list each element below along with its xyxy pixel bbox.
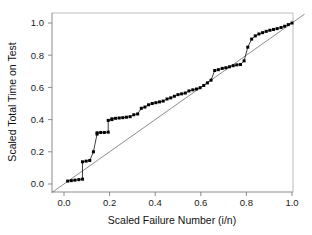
data-point xyxy=(77,178,80,181)
x-axis-ticks xyxy=(64,192,292,196)
data-point xyxy=(166,97,169,100)
data-point xyxy=(283,25,286,28)
x-axis-title: Scaled Failure Number (i/n) xyxy=(108,214,236,226)
y-tick-label-2: 0.4 xyxy=(31,114,44,125)
y-tick-label-3: 0.6 xyxy=(31,82,44,93)
ttt-plot-svg: 0.0 0.2 0.4 0.6 0.8 1.0 0.0 0.2 0.4 0.6 … xyxy=(0,0,312,235)
data-point xyxy=(202,84,205,87)
x-tick-labels: 0.0 0.2 0.4 0.6 0.8 1.0 xyxy=(57,197,298,208)
data-point xyxy=(210,79,213,82)
data-point xyxy=(81,178,84,181)
data-point xyxy=(235,63,238,66)
data-point xyxy=(107,131,110,134)
data-point xyxy=(85,160,88,163)
data-point xyxy=(92,150,95,153)
data-point xyxy=(154,101,157,104)
data-point xyxy=(125,116,128,119)
data-point xyxy=(169,96,172,99)
data-point xyxy=(287,23,290,26)
chart-figure: 0.0 0.2 0.4 0.6 0.8 1.0 0.0 0.2 0.4 0.6 … xyxy=(0,0,312,235)
data-point xyxy=(81,160,84,163)
data-point xyxy=(250,38,253,41)
data-point xyxy=(261,31,264,34)
data-point xyxy=(257,32,260,35)
data-point xyxy=(265,30,268,33)
y-tick-label-5: 1.0 xyxy=(31,17,44,28)
y-tick-label-1: 0.2 xyxy=(31,146,44,157)
data-point xyxy=(162,100,165,103)
x-tick-label-0: 0.0 xyxy=(57,197,70,208)
data-point xyxy=(280,26,283,29)
data-point xyxy=(143,106,146,109)
data-point xyxy=(221,67,224,70)
data-point xyxy=(191,88,194,91)
data-point xyxy=(107,119,110,122)
y-axis-title: Scaled Total Time on Test xyxy=(6,42,18,161)
data-point xyxy=(151,102,154,105)
data-point xyxy=(177,93,180,96)
data-point xyxy=(66,180,69,183)
data-point xyxy=(291,22,294,25)
data-point xyxy=(217,68,220,71)
y-axis-ticks xyxy=(48,23,52,184)
data-point xyxy=(246,46,249,49)
x-tick-label-3: 0.6 xyxy=(194,197,207,208)
data-point xyxy=(195,88,198,91)
data-point xyxy=(110,117,113,120)
data-point xyxy=(140,107,143,110)
x-tick-label-1: 0.2 xyxy=(103,197,116,208)
data-point xyxy=(121,116,124,119)
data-point xyxy=(239,63,242,66)
data-point xyxy=(254,34,257,37)
x-tick-label-4: 0.8 xyxy=(240,197,253,208)
y-tick-labels: 0.0 0.2 0.4 0.6 0.8 1.0 xyxy=(31,17,44,189)
x-tick-label-5: 1.0 xyxy=(285,197,298,208)
plot-frame xyxy=(52,13,293,192)
reference-diagonal-line xyxy=(51,14,304,193)
data-point xyxy=(129,115,132,118)
x-tick-label-2: 0.4 xyxy=(149,197,162,208)
y-tick-label-0: 0.0 xyxy=(31,178,44,189)
data-point xyxy=(272,28,275,31)
data-point xyxy=(232,64,235,67)
data-point xyxy=(180,92,183,95)
data-point xyxy=(224,66,227,69)
data-point xyxy=(158,100,161,103)
data-point xyxy=(268,29,271,32)
data-point xyxy=(96,131,99,134)
data-point xyxy=(132,113,135,116)
data-point xyxy=(213,69,216,72)
data-point xyxy=(243,59,246,62)
data-point xyxy=(103,131,106,134)
data-point xyxy=(206,81,209,84)
data-point xyxy=(276,27,279,30)
data-point xyxy=(228,65,231,68)
data-point xyxy=(136,112,139,115)
data-point xyxy=(70,179,73,182)
data-point xyxy=(118,116,121,119)
data-point xyxy=(173,95,176,98)
data-point xyxy=(147,103,150,106)
data-point xyxy=(187,89,190,92)
data-point xyxy=(114,117,117,120)
y-tick-label-4: 0.8 xyxy=(31,50,44,61)
data-point xyxy=(88,159,91,162)
data-point xyxy=(73,179,76,182)
data-point xyxy=(199,86,202,89)
data-point xyxy=(184,92,187,95)
data-point xyxy=(99,131,102,134)
